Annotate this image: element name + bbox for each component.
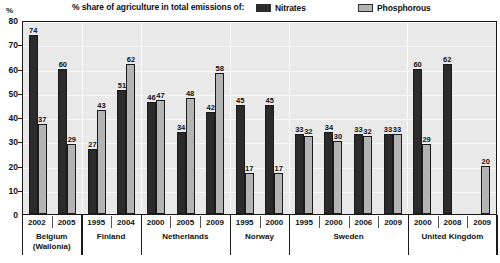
y-tick-label: 30 bbox=[1, 137, 18, 147]
bar-value-label: 46 bbox=[147, 93, 155, 102]
bar-nitrates[interactable]: 60 bbox=[58, 69, 67, 215]
bar-pair: 6029 bbox=[407, 22, 437, 214]
bar-nitrates[interactable]: 45 bbox=[236, 105, 245, 214]
bar-nitrates[interactable]: 33 bbox=[295, 134, 304, 214]
bar-phosphorous[interactable]: 43 bbox=[97, 110, 106, 214]
bar-phosphorous[interactable]: 33 bbox=[393, 134, 402, 214]
bar-value-label: 60 bbox=[413, 60, 421, 69]
bar-value-label: 33 bbox=[393, 125, 401, 134]
bar-phosphorous[interactable]: 20 bbox=[481, 166, 490, 215]
x-year-label: 2005 bbox=[52, 215, 82, 229]
bar-group-finland: 27435162 bbox=[82, 22, 141, 214]
bar-phosphorous[interactable]: 47 bbox=[156, 100, 165, 214]
x-group-sweden: 1995200020062009Sweden bbox=[289, 215, 408, 263]
bar-phosphorous[interactable]: 48 bbox=[186, 98, 195, 214]
bar-slot: 45 bbox=[236, 22, 245, 214]
bar-nitrates[interactable]: 34 bbox=[177, 132, 186, 214]
bar-slot: 33 bbox=[354, 22, 363, 214]
y-tick-label: 60 bbox=[1, 65, 18, 75]
bar-group-united-kingdom: 60296220 bbox=[407, 22, 496, 214]
bar-value-label: 48 bbox=[186, 89, 194, 98]
bar-pair: 6029 bbox=[53, 22, 83, 214]
bar-slot: 32 bbox=[363, 22, 372, 214]
x-year-label: 2006 bbox=[349, 215, 379, 229]
bar-slot: 17 bbox=[245, 22, 254, 214]
group-separator bbox=[230, 22, 231, 214]
bar-phosphorous[interactable]: 37 bbox=[38, 124, 47, 214]
bar-phosphorous[interactable]: 29 bbox=[67, 144, 76, 214]
bar-slot bbox=[452, 22, 461, 214]
x-year-label: 2000 bbox=[260, 215, 290, 229]
bar-group-norway: 45174517 bbox=[230, 22, 289, 214]
bar-phosphorous[interactable]: 32 bbox=[363, 136, 372, 214]
bar-value-label: 34 bbox=[177, 123, 185, 132]
y-tick-label: 50 bbox=[1, 89, 18, 99]
legend-item-nitrates: Nitrates bbox=[256, 2, 306, 13]
bar-value-label: 45 bbox=[266, 96, 274, 105]
x-year-label: 1995 bbox=[81, 215, 111, 229]
chart-title: % share of agriculture in total emission… bbox=[72, 2, 244, 12]
bar-slot: 33 bbox=[384, 22, 393, 214]
bar-slot: 27 bbox=[88, 22, 97, 214]
x-year-row: 19952004 bbox=[81, 215, 140, 229]
x-axis-groups: 20022005Belgium(Wallonia)19952004Finland… bbox=[22, 215, 497, 263]
bar-value-label: 34 bbox=[325, 123, 333, 132]
bar-phosphorous[interactable]: 58 bbox=[215, 73, 224, 214]
bar-pair: 4517 bbox=[230, 22, 260, 214]
bar-phosphorous[interactable]: 17 bbox=[245, 173, 254, 214]
bar-nitrates[interactable]: 33 bbox=[354, 134, 363, 214]
x-year-divider bbox=[52, 216, 53, 228]
bar-value-label: 29 bbox=[68, 135, 76, 144]
bar-nitrates[interactable]: 46 bbox=[147, 102, 156, 214]
bar-nitrates[interactable]: 27 bbox=[88, 149, 97, 214]
bar-nitrates[interactable]: 74 bbox=[29, 35, 38, 214]
bar-pair: 2743 bbox=[82, 22, 112, 214]
bar-group-netherlands: 464734484258 bbox=[141, 22, 230, 214]
bar-phosphorous[interactable]: 32 bbox=[304, 136, 313, 214]
bar-value-label: 60 bbox=[59, 60, 67, 69]
bar-value-label: 43 bbox=[97, 101, 105, 110]
x-group-netherlands: 200020052009Netherlands bbox=[141, 215, 230, 263]
bar-slot: 43 bbox=[97, 22, 106, 214]
bar-value-label: 33 bbox=[354, 125, 362, 134]
bar-value-label: 17 bbox=[275, 164, 283, 173]
x-year-label: 2009 bbox=[467, 215, 497, 229]
bar-phosphorous[interactable]: 17 bbox=[274, 173, 283, 214]
x-year-label: 2004 bbox=[111, 215, 141, 229]
bar-phosphorous[interactable]: 62 bbox=[126, 64, 135, 214]
y-tick-mark bbox=[18, 167, 22, 168]
x-group-finland: 19952004Finland bbox=[81, 215, 140, 263]
bar-value-label: 74 bbox=[29, 26, 37, 35]
bar-pair: 62 bbox=[437, 22, 467, 214]
bar-pair: 3332 bbox=[289, 22, 319, 214]
bar-value-label: 62 bbox=[443, 55, 451, 64]
bar-value-label: 32 bbox=[363, 127, 371, 136]
x-year-divider bbox=[378, 216, 379, 228]
bar-slot bbox=[472, 22, 481, 214]
bar-nitrates[interactable]: 33 bbox=[384, 134, 393, 214]
bar-value-label: 51 bbox=[118, 81, 126, 90]
bar-slot: 42 bbox=[206, 22, 215, 214]
bar-slot: 47 bbox=[156, 22, 165, 214]
bar-nitrates[interactable]: 51 bbox=[117, 90, 126, 214]
x-year-row: 1995200020062009 bbox=[289, 215, 408, 229]
bar-nitrates[interactable]: 42 bbox=[206, 112, 215, 214]
x-axis: 20022005Belgium(Wallonia)19952004Finland… bbox=[22, 215, 497, 263]
bar-slot: 62 bbox=[126, 22, 135, 214]
bar-phosphorous[interactable]: 29 bbox=[422, 144, 431, 214]
bar-phosphorous[interactable]: 30 bbox=[333, 141, 342, 214]
y-tick-label: 0 bbox=[1, 210, 18, 220]
x-year-divider bbox=[200, 216, 201, 228]
bar-nitrates[interactable]: 60 bbox=[413, 69, 422, 215]
x-year-row: 19952000 bbox=[230, 215, 289, 229]
x-country-label: Belgium(Wallonia) bbox=[22, 229, 81, 252]
bar-groups: 7437602927435162464734484258451745173332… bbox=[23, 22, 496, 214]
group-separator bbox=[289, 22, 290, 214]
bar-nitrates[interactable]: 34 bbox=[324, 132, 333, 214]
bar-pair: 7437 bbox=[23, 22, 53, 214]
x-year-divider bbox=[111, 216, 112, 228]
y-tick-label: 10 bbox=[1, 186, 18, 196]
bar-nitrates[interactable]: 62 bbox=[443, 64, 452, 214]
bar-slot: 33 bbox=[393, 22, 402, 214]
bar-nitrates[interactable]: 45 bbox=[265, 105, 274, 214]
